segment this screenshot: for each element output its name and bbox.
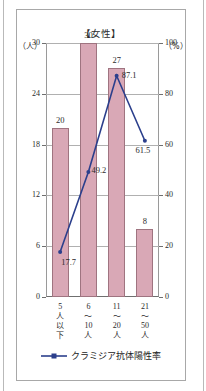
page-rule-left (3, 0, 4, 391)
line-marker-icon (58, 250, 62, 254)
x-axis-category-label: 6～10人 (84, 302, 92, 340)
category-label-line: 50 (141, 321, 149, 331)
y-axis-left-tick-label: 30 (32, 38, 40, 47)
category-label-line: 6 (84, 302, 92, 312)
y-axis-left-tick-label: 18 (32, 140, 40, 149)
category-label-line: 20 (113, 321, 121, 331)
line-marker-icon (86, 170, 90, 174)
chart-title: 【女性】 (17, 26, 185, 40)
y-axis-right-tick-label: 20 (165, 241, 173, 250)
y-axis-right-tick-label: 100 (165, 38, 177, 47)
bar-value-label: 30 (84, 30, 93, 40)
category-label-line: 人 (84, 331, 92, 341)
category-label-line: 人 (113, 331, 121, 341)
plot-area: （人） （%） 0612182430 020406080100 2030278 … (46, 43, 159, 297)
y-axis-right-tick-label: 0 (165, 292, 169, 301)
x-axis-category-label: 5人以下 (56, 302, 64, 340)
category-label-line: 以 (56, 321, 64, 331)
line-marker-icon (41, 352, 67, 360)
page-rule-right (203, 0, 204, 391)
y-axis-right-tick (159, 195, 163, 196)
category-label-line: ～ (113, 312, 121, 322)
y-axis-left-tick-label: 0 (36, 292, 40, 301)
legend-label: クラミジア抗体陽性率 (71, 349, 161, 362)
line-point-value-label: 87.1 (122, 70, 137, 80)
y-axis-right-tick (159, 246, 163, 247)
line-point-value-label: 61.5 (135, 145, 150, 155)
figure-page: 【女性】 （人） （%） 0612182430 020406080100 203… (0, 0, 206, 391)
category-label-line: 下 (56, 331, 64, 341)
category-label-line: 21 (141, 302, 149, 312)
x-axis-category-label: 21～50人 (141, 302, 149, 340)
line-path (60, 76, 145, 252)
line-point-value-label: 49.2 (91, 165, 106, 175)
y-axis-left-tick (42, 297, 46, 298)
y-axis-left-tick-label: 6 (36, 241, 40, 250)
category-label-line: 10 (84, 321, 92, 331)
y-axis-right-tick-label: 40 (165, 190, 173, 199)
category-label-line: 人 (141, 331, 149, 341)
chart-figure: 【女性】 （人） （%） 0612182430 020406080100 203… (16, 9, 186, 381)
category-label-line: ～ (84, 312, 92, 322)
x-axis-category-label: 11～20人 (113, 302, 121, 340)
y-axis-left-tick-label: 12 (32, 190, 40, 199)
category-label-line: 人 (56, 312, 64, 322)
line-point-value-label: 17.7 (61, 257, 76, 267)
line-marker-icon (115, 74, 119, 78)
y-axis-left-tick-label: 24 (32, 89, 40, 98)
category-label-line: 11 (113, 302, 121, 312)
category-label-line: 5 (56, 302, 64, 312)
line-marker-icon (143, 139, 147, 143)
chart-legend: クラミジア抗体陽性率 (17, 349, 185, 362)
category-label-line: ～ (141, 312, 149, 322)
y-axis-right-tick-label: 60 (165, 140, 173, 149)
y-axis-right-tick (159, 297, 163, 298)
y-axis-right-tick-label: 80 (165, 89, 173, 98)
y-axis-right-tick (159, 43, 163, 44)
y-axis-right-tick (159, 145, 163, 146)
y-axis-right-tick (159, 94, 163, 95)
